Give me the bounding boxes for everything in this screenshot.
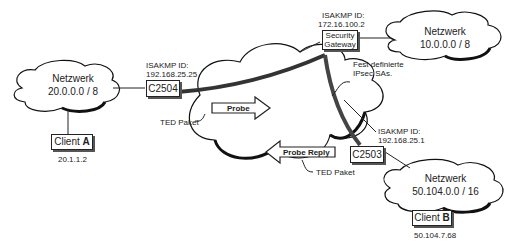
client-a-letter: A bbox=[83, 136, 90, 147]
gateway-isakmp-id: 172.16.100.2 bbox=[318, 20, 365, 29]
client-b[interactable]: Client B bbox=[412, 210, 452, 226]
gateway-label-2: Gateway bbox=[323, 40, 357, 49]
client-b-ip: 50.104.7.68 bbox=[414, 231, 456, 240]
security-gateway[interactable]: Security Gateway bbox=[322, 30, 358, 50]
router-c2504[interactable]: C2504 bbox=[146, 80, 180, 97]
client-a-label: Client bbox=[54, 136, 82, 147]
ted-packet-label-1: TED Paket bbox=[160, 118, 199, 127]
network-10-name: Netzwerk bbox=[405, 25, 485, 38]
network-a-address: 20.0.0.0 / 8 bbox=[38, 85, 108, 98]
c2504-isakmp-label: ISAKMP ID: bbox=[146, 61, 189, 70]
client-b-label: Client bbox=[414, 212, 442, 223]
gateway-label-1: Security bbox=[323, 31, 357, 40]
network-a-name: Netzwerk bbox=[38, 72, 108, 85]
client-b-letter: B bbox=[443, 212, 450, 223]
ted-packet-label-2: TED Paket bbox=[316, 168, 355, 177]
router-c2503[interactable]: C2503 bbox=[350, 146, 384, 163]
gateway-isakmp-label: ISAKMP ID: bbox=[322, 11, 365, 20]
network-a-label: Netzwerk 20.0.0.0 / 8 bbox=[38, 72, 108, 98]
fixed-sa-line2: IPsec SAs. bbox=[353, 69, 392, 78]
network-10-address: 10.0.0.0 / 8 bbox=[405, 38, 485, 51]
network-10-label: Netzwerk 10.0.0.0 / 8 bbox=[405, 25, 485, 51]
network-b-address: 50.104.0.0 / 16 bbox=[398, 185, 493, 198]
c2503-isakmp-label: ISAKMP ID: bbox=[378, 127, 421, 136]
network-b-label: Netzwerk 50.104.0.0 / 16 bbox=[398, 172, 493, 198]
client-a-ip: 20.1.1.2 bbox=[58, 155, 87, 164]
client-a[interactable]: Client A bbox=[51, 134, 93, 150]
c2503-isakmp-id: 192.168.25.1 bbox=[378, 136, 425, 145]
c2504-isakmp-id: 192.168.25.25 bbox=[146, 70, 197, 79]
network-b-name: Netzwerk bbox=[398, 172, 493, 185]
probe-label: Probe bbox=[227, 104, 250, 113]
probe-reply-label: Probe Reply bbox=[283, 148, 330, 157]
fixed-sa-line1: Fest definierte bbox=[353, 60, 404, 69]
